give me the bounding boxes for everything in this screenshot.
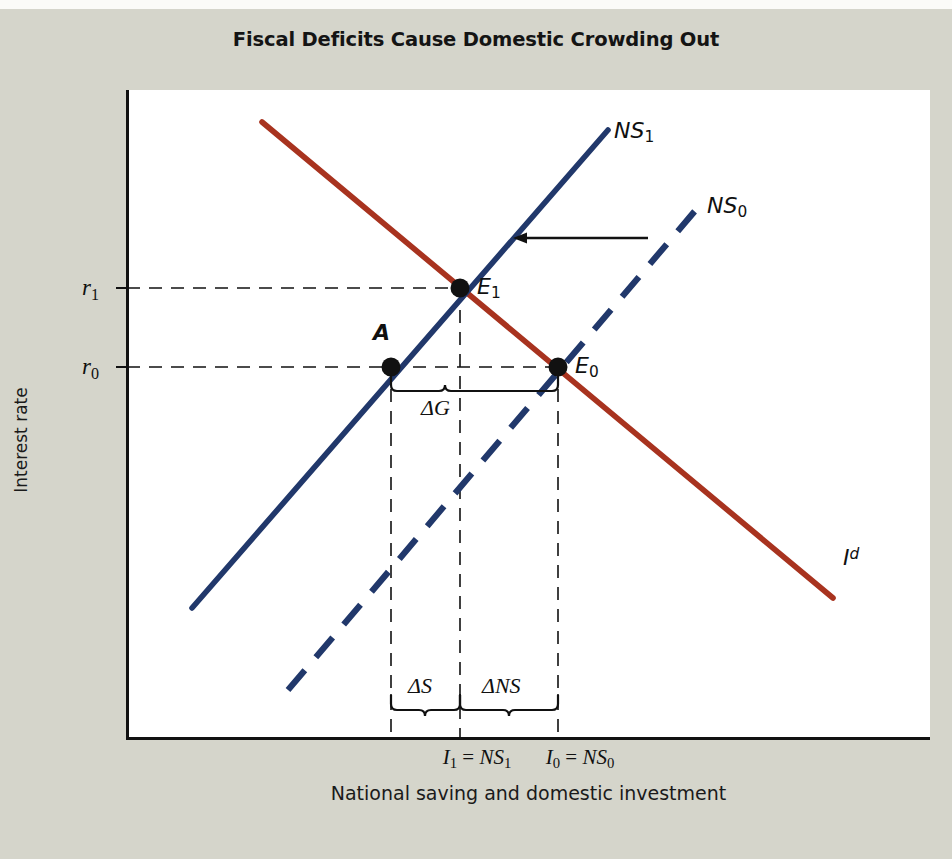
brace-label-delta-G: ΔG xyxy=(421,395,450,421)
x-tick-labels: I1 = NS1 I0 = NS0 xyxy=(127,745,930,772)
x-tick-label-I0: I0 = NS0 xyxy=(546,745,615,772)
plot-area: NS1 NS0 Id E1 E0 A ΔG ΔS ΔNS xyxy=(127,90,930,740)
curve-label-NS1: NS1 xyxy=(614,118,654,146)
curve-label-Id: Id xyxy=(843,545,859,570)
figure-container: Fiscal Deficits Cause Domestic Crowding … xyxy=(0,0,952,859)
chart-svg xyxy=(127,90,930,740)
point-label-E0: E0 xyxy=(575,353,599,381)
point-label-E1: E1 xyxy=(477,274,501,302)
shift-arrow-icon xyxy=(513,233,648,244)
curve-investment-demand xyxy=(262,122,833,598)
y-tick-label-r0: r0 xyxy=(82,354,99,383)
curve-label-NS0: NS0 xyxy=(707,193,747,221)
x-tick-label-I1: I1 = NS1 xyxy=(443,745,512,772)
point-label-A: A xyxy=(373,320,390,345)
x-axis-label: National saving and domestic investment xyxy=(127,782,930,804)
brace-delta-G xyxy=(391,376,558,391)
point-E0-marker xyxy=(549,358,568,377)
point-E1-marker xyxy=(451,279,470,298)
figure-title: Fiscal Deficits Cause Domestic Crowding … xyxy=(0,28,952,51)
y-tick-label-r1: r1 xyxy=(82,275,99,304)
point-A-marker xyxy=(382,358,401,377)
brace-label-delta-S: ΔS xyxy=(408,673,432,699)
brace-label-delta-NS: ΔNS xyxy=(482,673,521,699)
y-axis-label: Interest rate xyxy=(11,130,31,750)
